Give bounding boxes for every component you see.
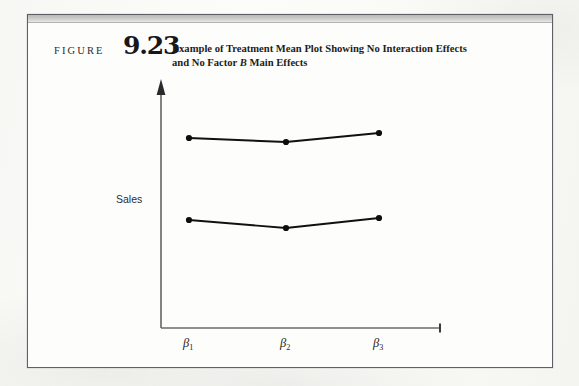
- data-point-lower-b2: [283, 225, 289, 231]
- y-axis-arrow-icon: [157, 79, 166, 95]
- x-tick-label-b2: β2: [279, 336, 290, 352]
- y-axis-label: Sales: [116, 193, 142, 205]
- data-point-lower-b3: [376, 215, 382, 221]
- x-tick-b2-sub: 2: [286, 343, 290, 352]
- data-point-upper-b3: [376, 130, 382, 136]
- chart-canvas: Sales β1 β2 β3: [28, 15, 554, 369]
- data-point-upper-b1: [186, 135, 192, 141]
- x-tick-b3-sub: 3: [379, 343, 383, 352]
- x-tick-label-b1: β1: [182, 336, 193, 352]
- data-point-upper-b2: [283, 139, 289, 145]
- data-point-lower-b1: [186, 217, 192, 223]
- x-tick-label-b3: β3: [372, 336, 383, 352]
- x-tick-b1-sub: 1: [189, 343, 193, 352]
- treatment-mean-plot: Sales β1 β2 β3: [28, 15, 554, 369]
- figure-frame: FIGURE 9.23 Example of Treatment Mean Pl…: [27, 14, 553, 368]
